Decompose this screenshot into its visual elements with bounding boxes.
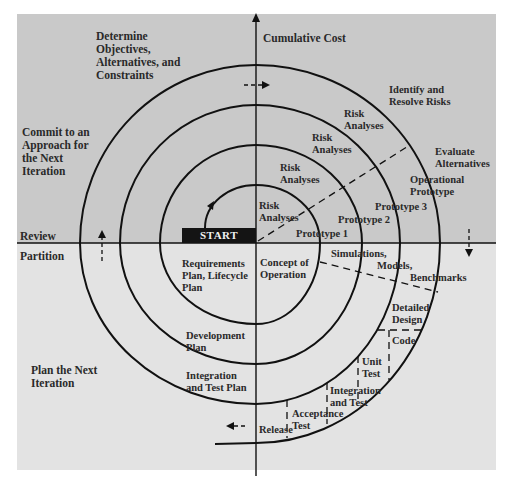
simulations-label: Simulations, (331, 248, 387, 260)
axis-label-partition: Partition (20, 250, 64, 263)
spiral-diagram (0, 0, 511, 489)
start-box: START (182, 228, 256, 243)
risk-analyses-1: Risk Analyses (259, 200, 299, 224)
quadrant-label-plan-next: Plan the Next Iteration (31, 364, 97, 390)
prototype-1: Prototype 1 (296, 228, 348, 240)
risk-analyses-3: Risk Analyses (312, 132, 352, 156)
concept-of-operation: Concept of Operation (260, 257, 309, 281)
risk-analyses-2: Risk Analyses (280, 162, 320, 186)
code-label: Code (392, 335, 415, 347)
operational-prototype: Operational Prototype (410, 174, 464, 198)
integration-test-label: Integration and Test (330, 385, 381, 409)
plan-requirements: Requirements Plan, Lifecycle Plan (182, 258, 248, 294)
quadrant-label-identify-risks: Identify and Resolve Risks (389, 84, 451, 108)
plan-integration-test: Integration and Test Plan (186, 370, 247, 394)
quadrant-label-evaluate: Evaluate Alternatives (435, 146, 490, 170)
axis-label-review: Review (20, 230, 56, 243)
quadrant-label-objectives: Determine Objectives, Alternatives, and … (96, 30, 180, 82)
risk-analyses-4: Risk Analyses (344, 108, 384, 132)
release-label: Release (259, 424, 293, 436)
spiral-tail (215, 443, 256, 444)
prototype-2: Prototype 2 (338, 214, 390, 226)
plan-development: Development Plan (186, 330, 245, 354)
prototype-3: Prototype 3 (375, 201, 427, 213)
quadrant-label-commit: Commit to an Approach for the Next Itera… (22, 126, 90, 178)
benchmarks-label: Benchmarks (410, 272, 467, 284)
unit-test-label: Unit Test (362, 356, 382, 380)
acceptance-test-label: Acceptance Test (292, 408, 343, 432)
detailed-design-label: Detailed Design (392, 302, 429, 326)
axis-label-cumulative-cost: Cumulative Cost (263, 32, 346, 45)
models-label: Models, (377, 260, 412, 272)
